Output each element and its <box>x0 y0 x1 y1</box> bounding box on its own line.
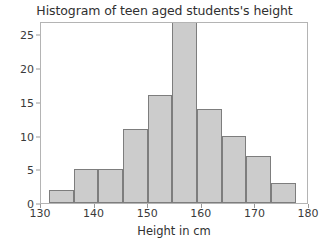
histogram-figure: Histogram of teen aged students's height… <box>0 0 329 249</box>
y-tick-label: 5 <box>27 164 34 177</box>
y-tick-mark <box>36 136 40 137</box>
x-tick-mark <box>40 204 41 208</box>
histogram-bar <box>197 109 222 203</box>
y-tick-mark <box>36 69 40 70</box>
x-tick-label: 160 <box>190 207 211 220</box>
x-tick-mark <box>254 204 255 208</box>
histogram-bar <box>172 22 197 203</box>
histogram-bar <box>123 129 148 203</box>
x-tick-label: 170 <box>244 207 265 220</box>
histogram-bar <box>222 136 247 203</box>
x-tick-label: 180 <box>298 207 319 220</box>
x-tick-mark <box>308 204 309 208</box>
y-tick-label: 10 <box>20 130 34 143</box>
x-axis-label: Height in cm <box>40 224 308 238</box>
y-tick-mark <box>36 170 40 171</box>
histogram-bars <box>41 23 307 203</box>
chart-title: Histogram of teen aged students's height <box>0 3 329 18</box>
x-tick-mark <box>94 204 95 208</box>
plot-area <box>40 22 308 204</box>
x-tick-label: 130 <box>30 207 51 220</box>
histogram-bar <box>246 156 271 203</box>
y-tick-mark <box>36 102 40 103</box>
y-tick-mark <box>36 35 40 36</box>
y-tick-label: 20 <box>20 63 34 76</box>
y-tick-label: 25 <box>20 29 34 42</box>
histogram-bar <box>74 169 99 203</box>
histogram-bar <box>49 190 74 203</box>
histogram-bar <box>271 183 296 203</box>
x-tick-label: 140 <box>83 207 104 220</box>
x-tick-label: 150 <box>137 207 158 220</box>
y-tick-label: 15 <box>20 96 34 109</box>
histogram-bar <box>148 95 173 203</box>
x-tick-mark <box>201 204 202 208</box>
x-tick-mark <box>147 204 148 208</box>
histogram-bar <box>98 169 123 203</box>
